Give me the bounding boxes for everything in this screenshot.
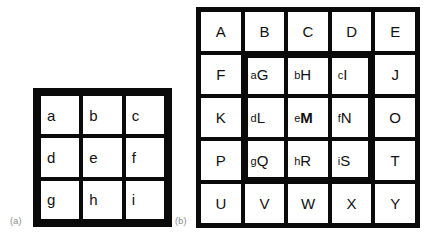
grid-b-cell-label: A bbox=[216, 24, 226, 39]
panel-a-caption: (a) bbox=[10, 216, 22, 226]
grid-b-cell-lower-label: b bbox=[294, 70, 300, 81]
grid-a-cell-label: a bbox=[41, 108, 55, 123]
grid-a-cell-label: e bbox=[83, 150, 97, 165]
grid-b-cell: E bbox=[375, 12, 415, 51]
grid-b-cell-upper-label: H bbox=[300, 67, 311, 82]
grid-a-cell-label: f bbox=[126, 150, 136, 165]
grid-b-cell-upper-label: N bbox=[341, 110, 352, 125]
grid-b-cell: P bbox=[201, 141, 241, 180]
grid-b-cell-label: T bbox=[391, 153, 400, 168]
grid-a-cell: c bbox=[126, 96, 164, 134]
grid-b-cell-label: J bbox=[391, 67, 399, 82]
grid-b-cell-upper-label: G bbox=[257, 67, 269, 82]
grid-a-cell: a bbox=[41, 96, 79, 134]
grid-a-cell: e bbox=[83, 138, 121, 176]
grid-b-cell-lower-label: e bbox=[294, 113, 300, 124]
grid-b-cell-inner: gQ bbox=[245, 141, 285, 180]
grid-a-cell: g bbox=[41, 181, 79, 219]
grid-a-cell: h bbox=[83, 181, 121, 219]
grid-b-cell-inner: fN bbox=[332, 98, 372, 137]
grid-a-cell-label: c bbox=[126, 108, 140, 123]
grid-b-cell-inner: dL bbox=[245, 98, 285, 137]
grid-b-cell-inner: cI bbox=[332, 55, 372, 94]
grid-a-cell-label: g bbox=[41, 192, 55, 207]
grid-b-cell: K bbox=[201, 98, 241, 137]
grid-b-cell-lower-label: h bbox=[294, 156, 300, 167]
grid-panel-a: a b c d e f g h i bbox=[33, 88, 172, 227]
grid-a-cell-label: i bbox=[126, 192, 135, 207]
grid-a-cell: d bbox=[41, 138, 79, 176]
grid-a-cell-label: h bbox=[83, 192, 97, 207]
grid-b-cell-label: O bbox=[389, 110, 401, 125]
grid-b-cell-lower-label: c bbox=[338, 70, 344, 81]
grid-b-cell-inner: iS bbox=[332, 141, 372, 180]
grid-b-cell-label: Y bbox=[390, 196, 400, 211]
grid-b-cell-inner: hR bbox=[288, 141, 328, 180]
grid-b-cell: U bbox=[201, 184, 241, 223]
grid-b-cell: F bbox=[201, 55, 241, 94]
grid-b-cell-lower-label: g bbox=[251, 156, 257, 167]
grid-b-cells: A B C D E F aG bH cI J K dL eM fN O P gQ… bbox=[201, 12, 415, 223]
grid-b-cell-label: E bbox=[390, 24, 400, 39]
grid-b-cell-upper-label: L bbox=[257, 110, 265, 125]
grid-b-cell-label: F bbox=[216, 67, 225, 82]
grid-b-cell: A bbox=[201, 12, 241, 51]
grid-b-cell-label: B bbox=[259, 24, 269, 39]
grid-a-cell: i bbox=[126, 181, 164, 219]
grid-panel-b: A B C D E F aG bH cI J K dL eM fN O P gQ… bbox=[196, 7, 420, 228]
grid-a-cell: b bbox=[83, 96, 121, 134]
grid-b-cell-label: K bbox=[216, 110, 226, 125]
grid-b-cell-upper-label: Q bbox=[257, 153, 269, 168]
grid-b-cell-label: X bbox=[347, 196, 357, 211]
grid-b-cell: B bbox=[245, 12, 285, 51]
grid-a-cell: f bbox=[126, 138, 164, 176]
figure-root: a b c d e f g h i (a) A B C D E F aG bH … bbox=[0, 0, 426, 243]
grid-b-cell: T bbox=[375, 141, 415, 180]
grid-b-cell-upper-label: R bbox=[300, 153, 311, 168]
grid-b-cell-lower-label: d bbox=[251, 113, 257, 124]
grid-b-cell: W bbox=[288, 184, 328, 223]
grid-b-cell-label: C bbox=[303, 24, 314, 39]
grid-b-cell-label: D bbox=[346, 24, 357, 39]
grid-b-cell: O bbox=[375, 98, 415, 137]
grid-b-cell-lower-label: f bbox=[338, 113, 341, 124]
grid-b-cell-upper-label: M bbox=[300, 110, 313, 125]
grid-b-cell-label: W bbox=[301, 196, 315, 211]
grid-b-cell-label: U bbox=[215, 196, 226, 211]
grid-b-cell: C bbox=[288, 12, 328, 51]
grid-b-cell-inner-highlighted: eM bbox=[288, 98, 328, 137]
grid-b-cell-lower-label: a bbox=[251, 70, 257, 81]
grid-a-cell-label: b bbox=[83, 108, 97, 123]
grid-b-cell: V bbox=[245, 184, 285, 223]
grid-b-cell-label: V bbox=[259, 196, 269, 211]
grid-b-cell: J bbox=[375, 55, 415, 94]
grid-b-cell: Y bbox=[375, 184, 415, 223]
grid-b-cell-inner: aG bbox=[245, 55, 285, 94]
grid-b-cell: D bbox=[332, 12, 372, 51]
panel-b-caption: (b) bbox=[175, 216, 187, 226]
grid-b-cell-label: P bbox=[216, 153, 226, 168]
grid-a-cell-label: d bbox=[41, 150, 55, 165]
grid-b-cell-inner: bH bbox=[288, 55, 328, 94]
grid-b-cell-lower-label: i bbox=[338, 156, 340, 167]
grid-b-cell: X bbox=[332, 184, 372, 223]
grid-b-cell-upper-label: I bbox=[343, 67, 347, 82]
grid-b-cell-upper-label: S bbox=[340, 153, 350, 168]
